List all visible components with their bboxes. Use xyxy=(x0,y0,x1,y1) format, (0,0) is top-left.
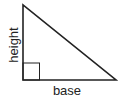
right-triangle-diagram: height base xyxy=(0,0,118,104)
triangle xyxy=(23,5,116,80)
right-angle-marker xyxy=(23,63,40,80)
base-label: base xyxy=(53,83,81,98)
height-label: height xyxy=(6,27,21,63)
